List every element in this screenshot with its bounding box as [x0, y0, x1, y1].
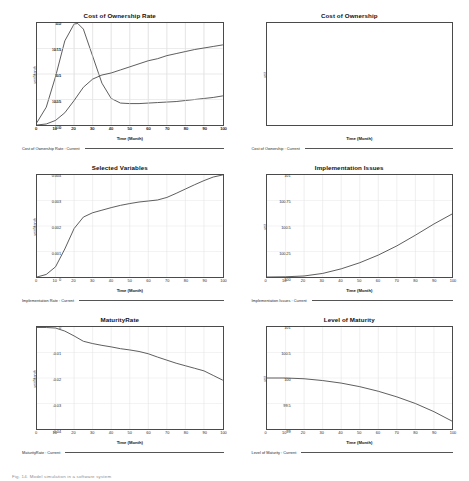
- legend-line-swatch: [301, 452, 453, 453]
- x-axis-title: Time (Month): [266, 439, 454, 446]
- figure-caption: Fig. 14. Model simulation in a software …: [12, 474, 111, 479]
- x-tick-label: 50: [357, 430, 361, 435]
- x-tick-label: 30: [320, 278, 324, 283]
- plot-svg: [37, 23, 223, 125]
- x-tick-label: 0: [264, 278, 266, 283]
- x-tick-label: 10: [53, 278, 57, 283]
- plot-svg: [267, 327, 453, 429]
- y-tick-label: -0.01: [53, 351, 61, 356]
- legend-label: Implementation Rate : Current: [22, 298, 74, 303]
- chart-panel-level-of-maturity: Level of Maturity 101100.510099.599 unit…: [238, 310, 462, 462]
- y-axis-tick-labels: 101100.75100.5100.25100: [267, 175, 293, 279]
- chart-title: Implementation Issues: [240, 164, 460, 172]
- x-tick-label: 90: [432, 278, 436, 283]
- x-tick-label: 40: [109, 430, 113, 435]
- legend-line-swatch: [312, 300, 453, 301]
- legend-label: Cost of Ownership Rate : Current: [22, 146, 80, 151]
- y-tick-label: 102.5: [52, 99, 61, 104]
- chart-title: Selected Variables: [10, 164, 230, 172]
- x-tick-label: 50: [357, 278, 361, 283]
- y-axis-title: unit/Month: [33, 370, 37, 388]
- x-tick-label: 60: [146, 430, 150, 435]
- x-axis-tick-labels: [266, 126, 454, 135]
- y-tick-label: 0.001: [52, 251, 61, 256]
- y-axis-tick-labels: 101100.510099.599: [267, 327, 293, 431]
- x-tick-label: 20: [71, 278, 75, 283]
- x-tick-label: 30: [90, 126, 94, 131]
- y-axis-tick-labels: 0.0040.0030.0020.0010: [37, 175, 63, 279]
- x-tick-label: 40: [109, 126, 113, 131]
- y-axis-title: unit/Month: [33, 218, 37, 236]
- y-axis-title: unit: [263, 72, 267, 78]
- x-tick-label: 60: [376, 430, 380, 435]
- x-tick-label: 30: [90, 430, 94, 435]
- x-tick-label: 70: [165, 278, 169, 283]
- plot-area: unit: [266, 22, 454, 126]
- x-axis-title: Time (Month): [36, 287, 224, 294]
- x-tick-label: 40: [338, 278, 342, 283]
- x-tick-label: 0: [35, 430, 37, 435]
- y-axis-title: unit/Month: [33, 66, 37, 84]
- x-tick-label: 10: [282, 278, 286, 283]
- x-tick-label: 50: [128, 430, 132, 435]
- plot-svg: [267, 175, 453, 277]
- chart-title: Cost of Ownership Rate: [10, 12, 230, 20]
- y-axis-tick-labels: 0-0.01-0.02-0.03-0.04: [37, 327, 63, 431]
- y-tick-label: 100.5: [281, 351, 290, 356]
- legend-line-swatch: [79, 300, 223, 301]
- chart-panel-cost-of-ownership-rate: Cost of Ownership Rate 0.20.150.10.05011…: [8, 6, 232, 158]
- x-axis-tick-labels: 0102030405060708090100: [266, 278, 454, 287]
- x-tick-label: 50: [128, 126, 132, 131]
- chart-title: Level of Maturity: [240, 316, 460, 324]
- x-tick-label: 40: [338, 430, 342, 435]
- legend-label: Cost of Ownership : Current: [252, 146, 300, 151]
- y-tick-label: 0: [59, 325, 61, 330]
- y-tick-label: -0.03: [53, 403, 61, 408]
- document-page: Cost of Ownership Rate 0.20.150.10.05011…: [0, 0, 469, 481]
- x-axis-tick-labels: 0102030405060708090100: [266, 430, 454, 439]
- chart-title: MaturityRate: [10, 316, 230, 324]
- x-tick-label: 90: [203, 126, 207, 131]
- legend-line-swatch: [65, 452, 223, 453]
- x-tick-label: 0: [35, 126, 37, 131]
- chart-title: Cost of Ownership: [240, 12, 460, 20]
- x-tick-label: 80: [184, 430, 188, 435]
- x-tick-label: 100: [220, 430, 227, 435]
- chart-panel-maturity-rate: MaturityRate 0-0.01-0.02-0.03-0.04 unit/…: [8, 310, 232, 462]
- plot-svg: [37, 175, 223, 277]
- plot-area: 101100.75100.5100.25100 unit: [266, 174, 454, 278]
- y-tick-label: -0.02: [53, 377, 61, 382]
- chart-legend: Implementation Rate : Current: [22, 296, 224, 304]
- x-tick-label: 10: [53, 430, 57, 435]
- x-tick-label: 0: [264, 430, 266, 435]
- chart-legend: Level of Maturity : Current: [252, 448, 454, 456]
- x-tick-label: 60: [146, 126, 150, 131]
- x-axis-tick-labels: 0102030405060708090100: [36, 430, 224, 439]
- x-tick-label: 30: [320, 430, 324, 435]
- x-tick-label: 20: [301, 278, 305, 283]
- x-axis-title: Time (Month): [36, 135, 224, 142]
- chart-panel-implementation-issues: Implementation Issues 101100.75100.5100.…: [238, 158, 462, 310]
- legend-line-swatch: [305, 148, 453, 149]
- y-tick-label: 100.5: [281, 225, 290, 230]
- x-tick-label: 60: [146, 278, 150, 283]
- x-tick-label: 40: [109, 278, 113, 283]
- x-tick-label: 60: [376, 278, 380, 283]
- legend-label: MaturityRate : Current: [22, 450, 60, 455]
- y-tick-label: 110: [55, 21, 61, 26]
- x-tick-label: 90: [203, 430, 207, 435]
- x-axis-title: Time (Month): [266, 135, 454, 142]
- x-tick-label: 80: [413, 278, 417, 283]
- chart-legend: Cost of Ownership : Current: [252, 144, 454, 152]
- y-tick-label: 0.003: [52, 199, 61, 204]
- x-tick-label: 100: [450, 430, 457, 435]
- chart-legend: Implementation Issues : Current: [252, 296, 454, 304]
- x-tick-label: 100: [220, 126, 227, 131]
- y-axis-title: unit: [263, 376, 267, 382]
- plot-area: 0.20.150.10.050110107.5105102.5100 unit/…: [36, 22, 224, 126]
- x-axis-title: Time (Month): [36, 439, 224, 446]
- plot-svg: [267, 23, 453, 125]
- y-tick-label: 107.5: [52, 47, 61, 52]
- x-tick-label: 10: [53, 126, 57, 131]
- chart-legend: MaturityRate : Current: [22, 448, 224, 456]
